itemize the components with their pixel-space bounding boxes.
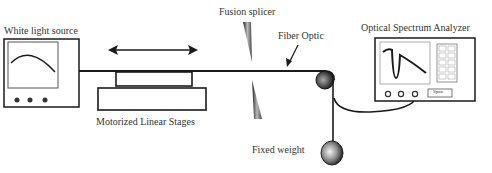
motorized-linear-stages (98, 72, 206, 110)
fusion-splicer-label: Fusion splicer (219, 6, 275, 17)
white-light-source-label: White light source (4, 25, 78, 36)
optical-spectrum-analyzer-device (375, 38, 475, 101)
fiber-pointer-arrow-icon (286, 45, 298, 67)
white-light-source-device (4, 39, 79, 107)
fixed-weight-label: Fixed weight (252, 144, 305, 155)
fixed-weight-ball (321, 141, 343, 165)
double-arrow-icon (108, 45, 198, 55)
fiber-optic-label: Fiber Optic (278, 30, 324, 41)
motorized-linear-stages-label: Motorized Linear Stages (96, 116, 195, 127)
span-button-label: Span (433, 89, 443, 94)
optical-spectrum-analyzer-label: Optical Spectrum Analyzer (361, 22, 470, 33)
